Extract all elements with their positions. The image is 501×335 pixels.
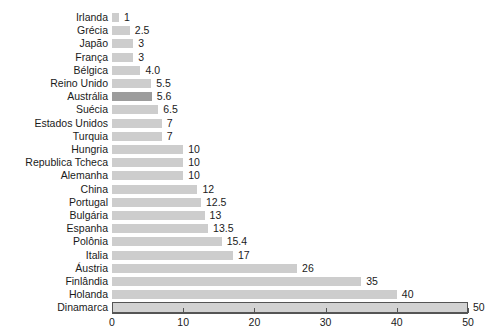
x-axis-line — [112, 313, 468, 314]
category-label: Bélgica — [0, 64, 108, 77]
bar-row: Alemanha10 — [0, 169, 501, 182]
bar-row: Hungria10 — [0, 143, 501, 156]
category-label: Áustria — [0, 262, 108, 275]
bar-row: Republica Tcheca10 — [0, 156, 501, 169]
bar-row: Suécia6.5 — [0, 103, 501, 116]
x-axis-tick — [112, 308, 113, 313]
category-label: China — [0, 183, 108, 196]
bar — [112, 158, 183, 167]
bar-row: Grécia2.5 — [0, 24, 501, 37]
bar-row: Polônia15.4 — [0, 235, 501, 248]
bar — [112, 171, 183, 180]
bar — [112, 105, 158, 114]
category-label: Irlanda — [0, 11, 108, 24]
value-label: 12 — [202, 183, 214, 196]
value-label: 3 — [138, 51, 144, 64]
bar — [112, 237, 222, 246]
bar-row: Austrália5.6 — [0, 90, 501, 103]
category-label: Portugal — [0, 196, 108, 209]
value-label: 10 — [188, 156, 200, 169]
category-label: Austrália — [0, 90, 108, 103]
category-label: Estados Unidos — [0, 117, 108, 130]
bar-row: Bélgica4.0 — [0, 64, 501, 77]
bar-row: França3 — [0, 51, 501, 64]
x-axis-tick-label: 10 — [177, 316, 189, 328]
value-label: 1 — [124, 11, 130, 24]
bar-row: Espanha13.5 — [0, 222, 501, 235]
bar — [112, 277, 361, 286]
category-label: Republica Tcheca — [0, 156, 108, 169]
value-label: 7 — [167, 130, 173, 143]
bar-row: Italia17 — [0, 249, 501, 262]
value-label: 50 — [473, 301, 485, 314]
value-label: 17 — [238, 249, 250, 262]
bar — [112, 185, 197, 194]
category-label: Dinamarca — [0, 301, 108, 314]
value-label: 13.5 — [213, 222, 233, 235]
category-label: Espanha — [0, 222, 108, 235]
x-axis-tick-label: 30 — [320, 316, 332, 328]
x-axis-tick — [326, 308, 327, 313]
x-axis-tick-label: 0 — [109, 316, 115, 328]
value-label: 5.5 — [156, 77, 171, 90]
bar — [112, 53, 133, 62]
bar — [112, 198, 201, 207]
value-label: 6.5 — [163, 103, 178, 116]
bar-row: Holanda40 — [0, 288, 501, 301]
bar-row: Bulgária13 — [0, 209, 501, 222]
x-axis-tick — [397, 308, 398, 313]
bar — [112, 264, 297, 273]
category-label: Grécia — [0, 24, 108, 37]
category-label: Bulgária — [0, 209, 108, 222]
category-label: Turquia — [0, 130, 108, 143]
x-axis-tick-label: 40 — [391, 316, 403, 328]
value-label: 26 — [302, 262, 314, 275]
category-label: Polônia — [0, 235, 108, 248]
bar-row: China12 — [0, 183, 501, 196]
bar-row: Turquia7 — [0, 130, 501, 143]
bar-axis-row — [112, 302, 468, 313]
bar-row: Estados Unidos7 — [0, 117, 501, 130]
value-label: 10 — [188, 143, 200, 156]
bar — [112, 39, 133, 48]
value-label: 13 — [210, 209, 222, 222]
value-label: 40 — [402, 288, 414, 301]
category-label: Hungria — [0, 143, 108, 156]
bar — [112, 290, 397, 299]
value-label: 3 — [138, 37, 144, 50]
value-label: 35 — [366, 275, 378, 288]
x-axis-tick — [468, 308, 469, 313]
value-label: 5.6 — [157, 90, 172, 103]
bar-row: Japão3 — [0, 37, 501, 50]
bar-chart: Irlanda1Grécia2.5Japão3França3Bélgica4.0… — [0, 0, 501, 335]
x-axis-tick-label: 50 — [462, 316, 474, 328]
category-label: Italia — [0, 249, 108, 262]
category-label: Japão — [0, 37, 108, 50]
value-label: 10 — [188, 169, 200, 182]
value-label: 12.5 — [206, 196, 226, 209]
bar-row: Portugal12.5 — [0, 196, 501, 209]
value-label: 4.0 — [145, 64, 160, 77]
category-label: Finlândia — [0, 275, 108, 288]
bar — [112, 66, 140, 75]
bar — [112, 224, 208, 233]
bar-row: Reino Unido5.5 — [0, 77, 501, 90]
x-axis-tick — [254, 308, 255, 313]
value-label: 2.5 — [135, 24, 150, 37]
category-label: França — [0, 51, 108, 64]
bar-row: Finlândia35 — [0, 275, 501, 288]
bar — [112, 26, 130, 35]
value-label: 15.4 — [227, 235, 247, 248]
category-label: Reino Unido — [0, 77, 108, 90]
bar-highlighted — [112, 92, 152, 101]
bar — [112, 145, 183, 154]
bar-row: Irlanda1 — [0, 11, 501, 24]
bar — [112, 251, 233, 260]
category-label: Suécia — [0, 103, 108, 116]
x-axis-tick — [183, 308, 184, 313]
bar — [112, 79, 151, 88]
value-label: 7 — [167, 117, 173, 130]
bar — [112, 132, 162, 141]
bar-row: Áustria26 — [0, 262, 501, 275]
category-label: Holanda — [0, 288, 108, 301]
